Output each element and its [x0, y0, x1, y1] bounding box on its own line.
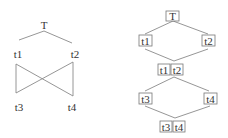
right-edge-join-t4: [174, 77, 209, 91]
right-node-join-a: t1: [160, 64, 169, 76]
right-node-top: T: [169, 10, 176, 22]
right-edge-top-t1: [145, 21, 173, 34]
right-node-t1: t1: [141, 35, 150, 47]
left-edge-t2-t3: [16, 62, 73, 93]
right-node-t3: t3: [141, 93, 150, 105]
right-node-join-b: t2: [173, 64, 182, 76]
right-node-t4: t4: [206, 93, 215, 105]
right-diagram: T t1 t2 t1 t2 t3 t4 t3 t4: [139, 10, 217, 133]
left-node-t2: t2: [71, 48, 80, 60]
diagram-canvas: T t1 t2 t3 t4 T t1 t2 t1 t2: [0, 0, 228, 138]
left-edge-top-t2: [44, 31, 72, 43]
left-node-t3: t3: [15, 101, 24, 113]
right-edge-t1-join: [145, 49, 174, 61]
right-node-bottom-b: t4: [175, 121, 184, 133]
right-node-bottom-a: t3: [162, 121, 171, 133]
left-edge-t1-t4: [16, 64, 73, 96]
right-edge-t3-bottom: [145, 106, 175, 118]
left-node-t1: t1: [14, 48, 23, 60]
right-edge-join-t3: [145, 77, 174, 91]
right-edge-t4-bottom: [175, 106, 210, 118]
left-edge-top-t1: [19, 31, 44, 40]
left-node-t4: t4: [68, 101, 77, 113]
left-diagram: T t1 t2 t3 t4: [14, 19, 80, 113]
right-node-t2: t2: [204, 35, 213, 47]
right-edge-t2-join: [174, 49, 208, 61]
left-node-top: T: [41, 19, 48, 31]
right-edge-top-t2: [173, 21, 208, 34]
